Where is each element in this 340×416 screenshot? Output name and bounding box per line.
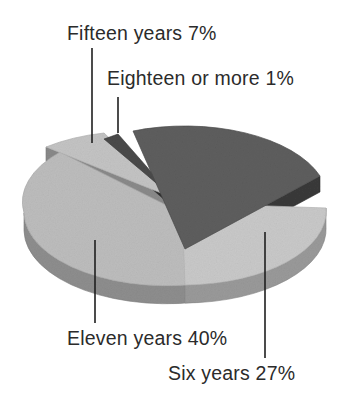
pie-chart-graphic [0,0,340,416]
slice-label-eleven-years: Eleven years 40% [67,329,227,349]
slice-label-fifteen-years: Fifteen years 7% [67,24,217,44]
slice-label-eighteen-or-more: Eighteen or more 1% [107,69,294,89]
slice-label-six-years: Six years 27% [168,364,295,384]
pie-chart-figure: Fifteen years 7% Eighteen or more 1% Ele… [0,0,340,416]
